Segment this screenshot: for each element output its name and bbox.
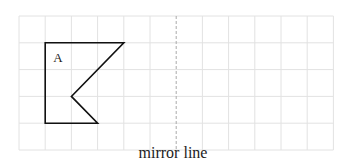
mirror-line-caption: mirror line xyxy=(0,144,346,162)
grid-diagram: A xyxy=(0,0,346,166)
shape-label: A xyxy=(53,50,63,65)
